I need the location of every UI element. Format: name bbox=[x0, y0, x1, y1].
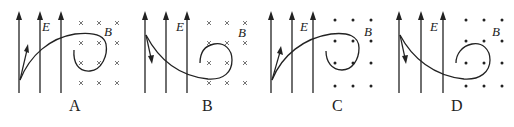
panel-c: E B C bbox=[256, 0, 384, 127]
magnetic-field-label: B bbox=[238, 25, 246, 41]
electric-field-label: E bbox=[176, 19, 184, 35]
panel-caption: C bbox=[332, 97, 343, 115]
velocity-arrow bbox=[20, 50, 27, 80]
panel-caption: D bbox=[451, 97, 463, 115]
trajectory bbox=[400, 35, 490, 79]
panel-b-diagram bbox=[128, 0, 256, 127]
trajectory bbox=[146, 35, 232, 79]
panel-d: E B D bbox=[384, 0, 512, 127]
panel-a: E B A bbox=[0, 0, 128, 127]
magnetic-field-label: B bbox=[104, 24, 112, 40]
magnetic-field-marks bbox=[79, 21, 119, 85]
electric-field-label: E bbox=[42, 19, 50, 35]
electric-field-lines bbox=[16, 11, 64, 93]
panel-caption: B bbox=[202, 97, 213, 115]
panel-b: E B B bbox=[128, 0, 256, 127]
cross-mark bbox=[79, 21, 83, 25]
magnetic-field-label: B bbox=[364, 24, 372, 40]
panel-d-diagram bbox=[384, 0, 514, 127]
magnetic-field-label: B bbox=[492, 24, 500, 40]
electric-field-label: E bbox=[430, 19, 438, 35]
trajectory bbox=[272, 34, 359, 80]
panel-a-diagram bbox=[0, 0, 128, 127]
electric-field-label: E bbox=[300, 19, 308, 35]
trajectory bbox=[20, 33, 106, 80]
panel-caption: A bbox=[69, 97, 81, 115]
panel-c-diagram bbox=[256, 0, 384, 127]
